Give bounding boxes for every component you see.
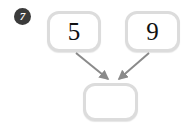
number-card-addend-1[interactable]: 5: [47, 11, 101, 52]
number-card-addend-2[interactable]: 9: [125, 11, 180, 52]
worksheet-problem-canvas: 7 5 9: [0, 0, 194, 124]
number-card-addend-2-value: 9: [128, 14, 177, 49]
number-card-addend-1-value: 5: [50, 14, 98, 49]
number-card-sum-value: [86, 86, 135, 118]
number-card-sum-answer-blank[interactable]: [83, 83, 138, 121]
arrow-addend-1-to-sum: [76, 53, 108, 79]
problem-number-badge: 7: [14, 8, 31, 25]
arrow-addend-2-to-sum: [119, 53, 149, 79]
